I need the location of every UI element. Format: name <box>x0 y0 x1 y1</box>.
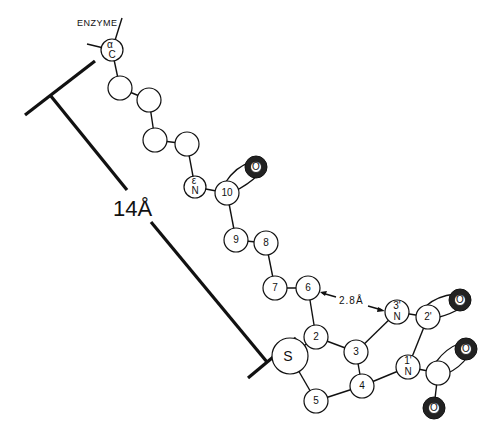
svg-text:C: C <box>108 49 115 60</box>
atom-n1prime: 1' N <box>396 355 420 379</box>
svg-text:6: 6 <box>305 282 311 293</box>
atom-oxygen-c10: O <box>245 156 267 178</box>
atom-carboxyl-carbon <box>426 361 450 385</box>
svg-text:1': 1' <box>404 355 412 366</box>
distance-label-2-8a: 2.8Å <box>339 294 364 306</box>
atom-n3prime: 3' N <box>385 300 409 324</box>
bracket-line-upper <box>50 95 127 190</box>
atom-chain-2 <box>137 88 161 112</box>
svg-text:O: O <box>462 343 470 354</box>
atom-c6: 6 <box>296 276 320 300</box>
svg-text:9: 9 <box>233 234 239 245</box>
svg-text:N: N <box>404 366 411 377</box>
atom-c9: 9 <box>224 228 248 252</box>
svg-text:N: N <box>191 185 198 196</box>
atom-c7: 7 <box>263 276 287 300</box>
svg-text:O: O <box>430 402 438 413</box>
atom-n-epsilon: ε N <box>184 175 206 198</box>
atom-c2: 2 <box>304 325 328 349</box>
svg-text:4: 4 <box>359 380 365 391</box>
svg-text:5: 5 <box>313 395 319 406</box>
atom-c3: 3 <box>344 340 368 364</box>
atom-chain-4 <box>175 132 199 156</box>
svg-text:8: 8 <box>263 237 269 248</box>
atom-c5: 5 <box>304 389 328 413</box>
svg-text:3': 3' <box>393 300 401 311</box>
atom-c8: 8 <box>254 231 278 255</box>
svg-text:2': 2' <box>424 311 432 322</box>
svg-text:N: N <box>393 311 400 322</box>
svg-text:S: S <box>283 348 292 364</box>
svg-text:3: 3 <box>353 346 359 357</box>
double-bonds <box>225 162 468 374</box>
atom-sulfur: S <box>272 338 308 374</box>
atom-c-alpha: α C <box>101 39 123 61</box>
atom-chain-3 <box>143 128 167 152</box>
distance-bracket-14a <box>25 61 296 378</box>
atom-c10: 10 <box>215 181 239 205</box>
atom-c4: 4 <box>350 374 374 398</box>
atom-chain-1 <box>108 76 132 100</box>
svg-text:O: O <box>252 161 260 172</box>
atom-c2prime: 2' <box>416 305 440 329</box>
biotin-enzyme-diagram: 14Å <box>0 0 500 439</box>
svg-text:10: 10 <box>221 187 233 198</box>
svg-text:2: 2 <box>313 331 319 342</box>
atom-oxygen-c2prime: O <box>449 289 471 311</box>
distance-label-14a: 14Å <box>113 196 152 221</box>
atom-oxygen-carboxyl-bottom: O <box>423 397 445 419</box>
atom-oxygen-carboxyl-right: O <box>455 338 477 360</box>
bracket-line-lower <box>151 222 267 362</box>
svg-text:7: 7 <box>272 282 278 293</box>
svg-text:O: O <box>456 294 464 305</box>
enzyme-label: ENZYME <box>77 18 118 28</box>
